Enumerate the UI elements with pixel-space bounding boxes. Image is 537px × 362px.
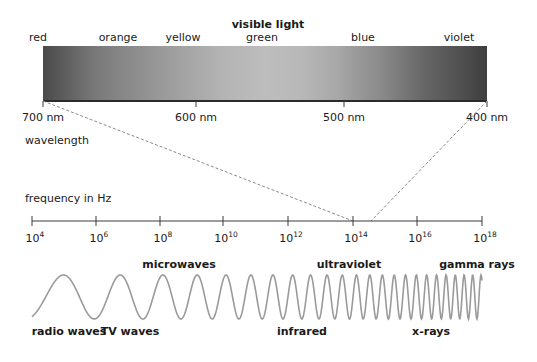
electromagnetic-spectrum-diagram: visible light redorangeyellowgreenbluevi… bbox=[0, 0, 537, 362]
em-wave-chirp bbox=[32, 275, 482, 319]
wavelength-ticks bbox=[43, 101, 487, 107]
dashed-projection-line-700nm bbox=[43, 101, 353, 221]
dashed-projection-line-400nm bbox=[371, 101, 487, 221]
diagram-graphics bbox=[0, 0, 537, 362]
